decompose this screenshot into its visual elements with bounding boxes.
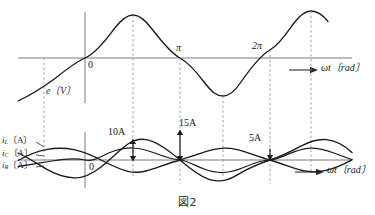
- lower-origin-label: 0: [89, 162, 94, 172]
- series-label-iL: iL〔A〕: [2, 136, 32, 145]
- upper-y-axis-label: e〔V〕: [46, 87, 76, 97]
- tick-label-pi: π: [176, 43, 181, 53]
- series-label-iR: iR〔A〕: [2, 161, 33, 170]
- lower-panel: [18, 130, 352, 188]
- annotation-label-15a: 15A: [179, 118, 196, 128]
- lower-x-axis-label: ωt〔rad〕: [327, 165, 371, 175]
- upper-origin-label: 0: [88, 60, 93, 70]
- upper-x-axis-arrow: [289, 67, 318, 73]
- series-label-iC-unit: 〔A〕: [9, 148, 34, 158]
- series-label-iR-unit: 〔A〕: [8, 160, 33, 170]
- annotation-label-5a: 5A: [249, 133, 261, 143]
- tick-label-2pi: 2π: [252, 41, 262, 51]
- series-label-iL-unit: 〔A〕: [8, 135, 33, 145]
- annotation-arrow-15a: [177, 130, 183, 162]
- waveform-figure: [0, 0, 375, 215]
- series-label-iC: iC〔A〕: [2, 149, 33, 158]
- annotation-label-10a: 10A: [108, 127, 125, 137]
- figure-caption: 図2: [0, 193, 375, 209]
- upper-x-axis-label: ωt〔rad〕: [321, 63, 365, 73]
